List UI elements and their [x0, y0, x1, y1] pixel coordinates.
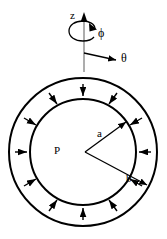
outer-circle [9, 78, 157, 226]
theta-axis-label: θ [121, 52, 127, 64]
pressure-arrow-group [15, 84, 151, 220]
phi-axis-label: ϕ [98, 27, 104, 39]
inner-circle [30, 99, 136, 205]
pressure-arrow-icon [24, 118, 36, 125]
pressure-arrow-icon [109, 200, 117, 211]
pressure-arrow-icon [109, 93, 117, 104]
figure-container: z ϕ θ a b P [0, 0, 167, 239]
pressure-label: P [54, 145, 60, 156]
pressure-arrow-icon [49, 93, 57, 104]
inner-radius-label: a [97, 128, 102, 139]
diagram-canvas [0, 0, 167, 239]
pressure-arrow-icon [130, 118, 142, 125]
theta-axis-line [84, 53, 116, 60]
coordinate-triad [69, 12, 116, 72]
outer-radius-label: b [126, 173, 132, 184]
z-axis-label: z [70, 10, 75, 21]
inner-radius-line [85, 122, 126, 152]
outer-radius-line [85, 152, 147, 185]
pressure-arrow-icon [49, 200, 57, 211]
pressure-arrow-icon [24, 179, 36, 186]
